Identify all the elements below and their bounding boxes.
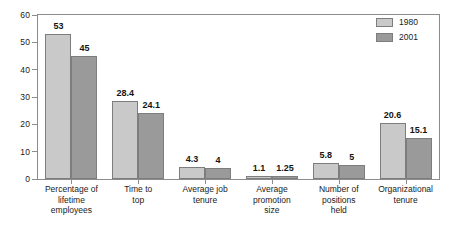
bar-value-label: 5.8 (319, 150, 332, 161)
x-axis-category-label: Organizationaltenure (365, 184, 446, 205)
bar-2001-1 (138, 113, 164, 179)
bar-value-label: 20.6 (384, 110, 402, 121)
y-axis-tick-mark (32, 179, 37, 180)
bar-group: 5345 (45, 15, 97, 179)
x-axis-category-line: Organizational (365, 184, 446, 195)
bar-value-label: 1.1 (253, 163, 266, 174)
bar-1980-1 (112, 101, 138, 179)
bar-1980-5 (380, 123, 406, 179)
y-axis-tick: 40 (0, 64, 37, 76)
bar-2001-3 (272, 176, 298, 179)
bar-2001-4 (339, 165, 365, 179)
legend-swatch-icon (376, 33, 393, 42)
bar-2001-2 (205, 168, 231, 179)
bar-group: 1.11.25 (246, 15, 298, 179)
legend-item-label: 2001 (399, 32, 418, 43)
legend-item-1980[interactable]: 1980 (376, 16, 436, 29)
bar-value-label: 4 (216, 155, 221, 166)
y-axis-tick-mark (32, 42, 37, 43)
y-axis-tick: 60 (0, 9, 37, 21)
y-axis-tick-mark (32, 69, 37, 70)
x-axis-category-line: employees (31, 205, 112, 216)
y-axis-tick-label: 20 (20, 118, 30, 130)
bar-group: 5.85 (313, 15, 365, 179)
legend-swatch-icon (376, 18, 393, 27)
bar-value-label: 53 (53, 21, 63, 32)
bar-value-label: 28.4 (116, 88, 134, 99)
bar-2001-0 (71, 56, 97, 179)
chart-legend: 19802001 (376, 16, 436, 46)
bar-value-label: 1.25 (276, 163, 294, 174)
bar-group: 28.424.1 (112, 15, 164, 179)
legend-item-label: 1980 (399, 17, 418, 28)
y-axis-tick-mark (32, 124, 37, 125)
bar-1980-0 (45, 34, 71, 179)
bar-value-label: 4.3 (186, 154, 199, 165)
y-axis-tick-mark (32, 15, 37, 16)
bar-value-label: 45 (79, 43, 89, 54)
x-axis-category-line: tenure (365, 195, 446, 206)
legend-item-2001[interactable]: 2001 (376, 31, 436, 44)
bar-2001-5 (406, 138, 432, 179)
x-axis-tick-mark (71, 180, 72, 184)
y-axis-tick-label: 50 (20, 36, 30, 48)
y-axis-tick: 10 (0, 146, 37, 158)
bar-1980-2 (179, 167, 205, 179)
x-axis-tick-mark (205, 180, 206, 184)
bar-value-label: 24.1 (142, 100, 160, 111)
y-axis-tick-label: 40 (20, 64, 30, 76)
y-axis-tick-mark (32, 97, 37, 98)
x-axis-tick-mark (138, 180, 139, 184)
y-axis-tick: 50 (0, 36, 37, 48)
y-axis-tick-label: 0 (25, 173, 30, 185)
bar-group: 4.34 (179, 15, 231, 179)
bar-value-label: 5 (349, 152, 354, 163)
x-axis-tick-mark (406, 180, 407, 184)
x-axis-category-line: held (298, 205, 379, 216)
x-axis-tick-mark (272, 180, 273, 184)
y-axis-tick-label: 30 (20, 91, 30, 103)
y-axis-tick: 30 (0, 91, 37, 103)
bar-value-label: 15.1 (410, 125, 428, 136)
y-axis-tick-label: 10 (20, 146, 30, 158)
y-axis-tick-label: 60 (20, 9, 30, 21)
x-axis-labels: Percentage oflifetimeemployeesTime totop… (38, 184, 439, 227)
bar-1980-3 (246, 176, 272, 179)
y-axis-tick: 20 (0, 118, 37, 130)
x-axis-tick-mark (339, 180, 340, 184)
bar-chart: 0102030405060 534528.424.14.341.11.255.8… (0, 0, 461, 227)
bar-1980-4 (313, 163, 339, 179)
y-axis-tick-mark (32, 151, 37, 152)
